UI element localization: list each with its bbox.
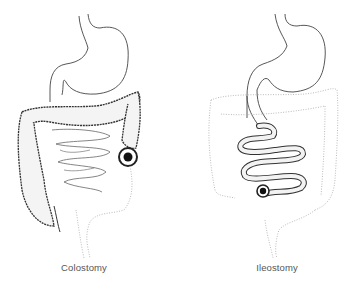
inactive-rectum bbox=[87, 166, 132, 258]
stomach-outer bbox=[257, 25, 325, 92]
stomach-outer bbox=[62, 27, 128, 95]
stomach-inner bbox=[247, 46, 287, 118]
ascending-colon bbox=[18, 112, 54, 226]
transverse-colon bbox=[22, 92, 140, 130]
stoma-opening-icon bbox=[260, 188, 266, 194]
small-intestine bbox=[52, 129, 110, 192]
stomach-inner bbox=[50, 48, 88, 102]
esophagus-right bbox=[88, 14, 100, 28]
ileostomy-panel: Ileostomy bbox=[175, 0, 349, 286]
colostomy-label: Colostomy bbox=[24, 262, 144, 273]
ileostomy-label: Ileostomy bbox=[217, 262, 337, 273]
colostomy-panel: Colostomy bbox=[0, 0, 175, 286]
stoma-opening-icon bbox=[124, 153, 133, 162]
inactive-rectum bbox=[276, 210, 315, 258]
ileostomy-illustration bbox=[175, 0, 349, 286]
colostomy-illustration bbox=[0, 0, 175, 286]
appendix bbox=[54, 206, 60, 232]
esophagus-left bbox=[79, 16, 88, 48]
